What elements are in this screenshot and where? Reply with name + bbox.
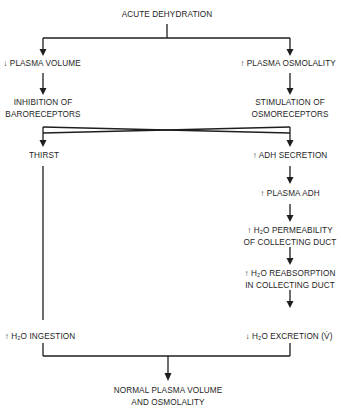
node-plasma-adh: ↑ PLASMA ADH	[260, 188, 319, 200]
node-normal-plasma: NORMAL PLASMA VOLUMEAND OSMOLALITY	[114, 385, 223, 409]
node-h2o-permeability: ↑ H₂O PERMEABILITYOF COLLECTING DUCT	[244, 225, 337, 249]
node-thirst: THIRST	[29, 150, 59, 162]
node-plasma-osmolality: ↑ PLASMA OSMOLALITY	[240, 58, 336, 70]
node-stimulation-osmoreceptors: STIMULATION OFOSMORECEPTORS	[251, 97, 328, 121]
node-adh-secretion: ↑ ADH SECRETION	[253, 150, 328, 162]
node-h2o-ingestion: ↑ H₂O INGESTION	[5, 331, 76, 343]
node-h2o-excretion: ↓ H₂O EXCRETION (V̇)	[246, 331, 333, 343]
node-acute-dehydration: ACUTE DEHYDRATION	[122, 9, 213, 21]
node-h2o-reabsorption: ↑ H₂O REABSORPTIONIN COLLECTING DUCT	[245, 268, 336, 292]
node-inhibition-baroreceptors: INHIBITION OFBARORECEPTORS	[5, 97, 80, 121]
node-plasma-volume: ↓ PLASMA VOLUME	[3, 58, 81, 70]
